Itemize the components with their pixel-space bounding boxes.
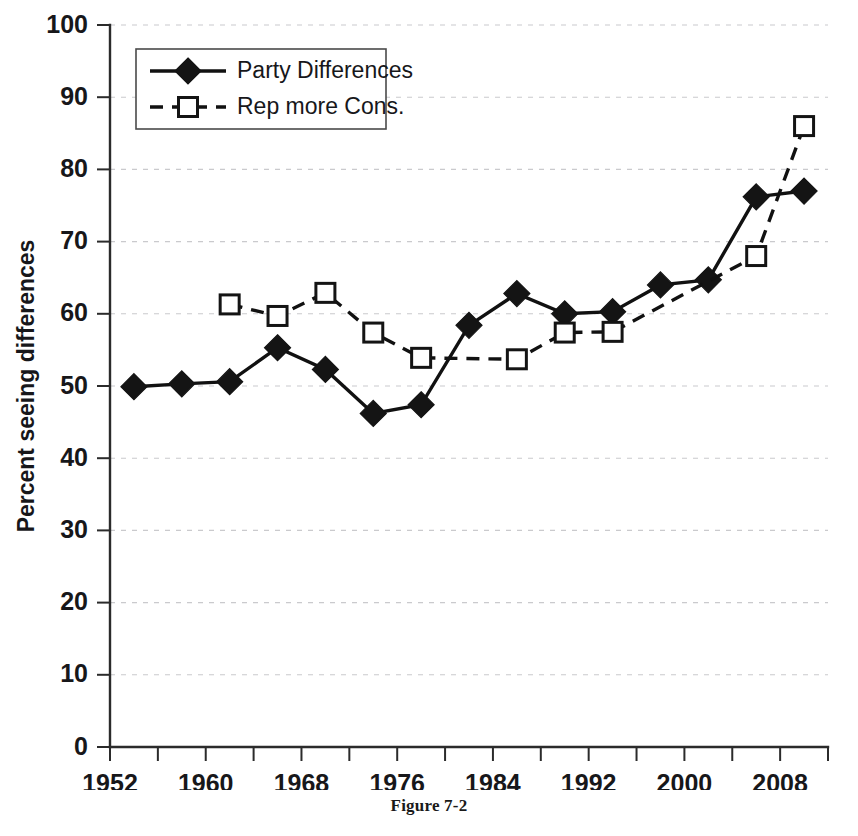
marker-filled-diamond bbox=[504, 281, 530, 307]
marker-open-square bbox=[316, 283, 335, 302]
marker-filled-diamond bbox=[217, 369, 243, 395]
y-tick-label-80: 80 bbox=[60, 154, 88, 182]
marker-filled-diamond bbox=[647, 272, 673, 298]
marker-open-square bbox=[220, 295, 239, 314]
legend-label-2: Rep more Cons. bbox=[237, 93, 404, 119]
marker-filled-diamond bbox=[743, 184, 769, 210]
marker-open-square bbox=[507, 350, 526, 369]
marker-open-square bbox=[747, 247, 766, 266]
marker-filled-diamond bbox=[695, 267, 721, 293]
marker-filled-diamond bbox=[456, 312, 482, 338]
line-chart: 0102030405060708090100 19521960196819761… bbox=[0, 0, 858, 790]
marker-open-square bbox=[795, 117, 814, 136]
data-series bbox=[121, 117, 817, 427]
marker-open-square bbox=[364, 323, 383, 342]
x-tick-label-1952: 1952 bbox=[82, 769, 138, 790]
y-axis: 0102030405060708090100 bbox=[46, 10, 110, 760]
y-tick-label-70: 70 bbox=[60, 226, 88, 254]
x-tick-label-1976: 1976 bbox=[369, 769, 425, 790]
legend-label-1: Party Differences bbox=[237, 57, 413, 83]
series-line-2 bbox=[230, 126, 804, 359]
marker-filled-diamond bbox=[121, 374, 147, 400]
marker-filled-diamond bbox=[408, 392, 434, 418]
x-axis: 19521960196819761984199220002008 bbox=[82, 747, 828, 790]
x-tick-label-1992: 1992 bbox=[561, 769, 617, 790]
series-2 bbox=[220, 117, 813, 369]
marker-open-square bbox=[268, 306, 287, 325]
figure-container: 0102030405060708090100 19521960196819761… bbox=[0, 0, 858, 836]
y-axis-title: Percent seeing differences bbox=[13, 240, 39, 533]
y-tick-label-30: 30 bbox=[60, 515, 88, 543]
y-tick-label-40: 40 bbox=[60, 443, 88, 471]
y-tick-label-90: 90 bbox=[60, 82, 88, 110]
marker-filled-diamond bbox=[791, 178, 817, 204]
y-tick-label-10: 10 bbox=[60, 659, 88, 687]
marker-filled-diamond bbox=[600, 299, 626, 325]
x-tick-label-2008: 2008 bbox=[752, 769, 808, 790]
x-tick-label-1984: 1984 bbox=[465, 769, 521, 790]
marker-open-square bbox=[555, 323, 574, 342]
y-tick-label-100: 100 bbox=[46, 10, 88, 38]
x-tick-label-1960: 1960 bbox=[178, 769, 234, 790]
y-tick-label-60: 60 bbox=[60, 298, 88, 326]
marker-open-square bbox=[412, 348, 431, 367]
y-tick-label-0: 0 bbox=[74, 732, 88, 760]
marker-filled-diamond bbox=[169, 371, 195, 397]
figure-caption: Figure 7-2 bbox=[0, 796, 858, 816]
y-tick-label-50: 50 bbox=[60, 371, 88, 399]
marker-open-square bbox=[179, 98, 198, 117]
chart-legend: Party DifferencesRep more Cons. bbox=[136, 49, 413, 129]
x-tick-label-1968: 1968 bbox=[274, 769, 330, 790]
y-tick-label-20: 20 bbox=[60, 587, 88, 615]
marker-filled-diamond bbox=[265, 335, 291, 361]
x-tick-label-2000: 2000 bbox=[657, 769, 713, 790]
marker-open-square bbox=[603, 322, 622, 341]
